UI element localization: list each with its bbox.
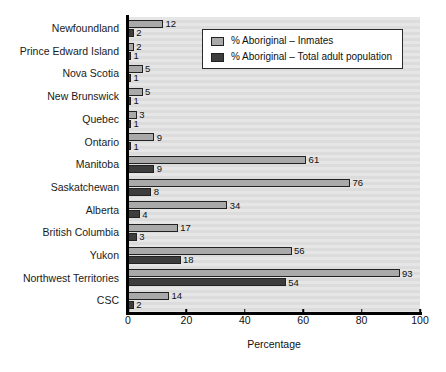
bar-value-label: 76 — [352, 178, 363, 188]
bar-wrapper: 8 — [128, 188, 420, 196]
y-axis-label: Quebec — [0, 108, 124, 131]
bar-wrapper: 14 — [128, 292, 420, 300]
bar — [128, 165, 154, 173]
bar-value-label: 4 — [142, 210, 147, 220]
bar — [128, 247, 292, 255]
x-axis-tick-label: 100 — [411, 314, 429, 326]
bar-wrapper: 34 — [128, 201, 420, 209]
legend-swatch-light — [211, 37, 224, 46]
x-axis-tick-label: 40 — [239, 314, 251, 326]
bar-value-label: 1 — [133, 73, 138, 83]
bar — [128, 301, 134, 309]
bar-group: 91 — [128, 130, 420, 153]
bar-wrapper: 5 — [128, 88, 420, 96]
bar-value-label: 1 — [133, 96, 138, 106]
bar-wrapper: 54 — [128, 278, 420, 286]
y-axis-label: Nova Scotia — [0, 62, 124, 85]
bar — [128, 292, 169, 300]
bar — [128, 20, 163, 28]
x-axis-tick-label: 0 — [125, 314, 131, 326]
bar — [128, 224, 178, 232]
legend-item: % Aboriginal – Inmates — [211, 36, 392, 46]
bar-wrapper: 76 — [128, 179, 420, 187]
bar-value-label: 54 — [288, 278, 299, 288]
bar-value-label: 2 — [136, 28, 141, 38]
bar-value-label: 8 — [154, 187, 159, 197]
bar-wrapper: 9 — [128, 133, 420, 141]
bar-value-label: 2 — [136, 300, 141, 310]
bar — [128, 256, 181, 264]
bar-wrapper: 1 — [128, 97, 420, 105]
y-axis-label: Saskatchewan — [0, 176, 124, 199]
legend-label: % Aboriginal – Inmates — [231, 36, 333, 46]
bar-group: 31 — [128, 108, 420, 131]
bar-group: 142 — [128, 289, 420, 312]
bar-value-label: 3 — [139, 232, 144, 242]
bar-value-label: 1 — [133, 119, 138, 129]
bar-value-label: 5 — [145, 64, 150, 74]
bar — [128, 156, 306, 164]
y-axis-label: Ontario — [0, 130, 124, 153]
legend-swatch-dark — [211, 53, 224, 62]
bar-value-label: 12 — [166, 19, 177, 29]
y-axis-label: Newfoundland — [0, 17, 124, 40]
bar-group: 768 — [128, 176, 420, 199]
y-axis-category-labels: NewfoundlandPrince Edward IslandNova Sco… — [0, 17, 124, 312]
bar — [128, 133, 154, 141]
x-axis-ticks: 020406080100 — [128, 314, 420, 334]
bar-wrapper: 1 — [128, 120, 420, 128]
bar-wrapper: 3 — [128, 233, 420, 241]
y-axis-label: Northwest Territories — [0, 267, 124, 290]
bar-value-label: 61 — [309, 155, 320, 165]
bar-value-label: 34 — [230, 201, 241, 211]
bar-value-label: 1 — [133, 142, 138, 152]
bar — [128, 210, 140, 218]
bar-group: 344 — [128, 199, 420, 222]
bar — [128, 179, 350, 187]
bar-value-label: 56 — [294, 246, 305, 256]
bar-wrapper: 4 — [128, 210, 420, 218]
bar-wrapper: 17 — [128, 224, 420, 232]
bar-group: 173 — [128, 221, 420, 244]
bar-value-label: 93 — [402, 269, 413, 279]
bar-wrapper: 3 — [128, 111, 420, 119]
bar — [128, 269, 400, 277]
x-axis-tick-label: 20 — [181, 314, 193, 326]
y-axis-label: CSC — [0, 289, 124, 312]
y-axis-line — [126, 15, 129, 314]
chart-legend: % Aboriginal – Inmates% Aboriginal – Tot… — [202, 29, 403, 69]
x-axis-tick-label: 60 — [297, 314, 309, 326]
y-axis-label: British Columbia — [0, 221, 124, 244]
y-axis-label: Prince Edward Island — [0, 40, 124, 63]
bar — [128, 188, 151, 196]
bar-value-label: 9 — [157, 164, 162, 174]
legend-label: % Aboriginal – Total adult population — [231, 52, 392, 62]
bar-value-label: 17 — [180, 223, 191, 233]
bar-value-label: 14 — [171, 291, 182, 301]
bar-value-label: 1 — [133, 51, 138, 61]
bar-wrapper: 1 — [128, 142, 420, 150]
bar — [128, 233, 137, 241]
x-axis-tick-label: 80 — [356, 314, 368, 326]
bar-wrapper: 56 — [128, 247, 420, 255]
bar-value-label: 5 — [145, 87, 150, 97]
bar-value-label: 3 — [139, 110, 144, 120]
bar-wrapper: 18 — [128, 256, 420, 264]
bar-wrapper: 93 — [128, 269, 420, 277]
bar-group: 619 — [128, 153, 420, 176]
bar — [128, 278, 286, 286]
bar-chart: NewfoundlandPrince Edward IslandNova Sco… — [0, 0, 446, 372]
bar-wrapper: 1 — [128, 74, 420, 82]
bar-group: 51 — [128, 85, 420, 108]
bar — [128, 29, 134, 37]
bar-group: 5618 — [128, 244, 420, 267]
y-axis-label: Yukon — [0, 244, 124, 267]
bar-wrapper: 2 — [128, 301, 420, 309]
bar-wrapper: 61 — [128, 156, 420, 164]
bar-value-label: 18 — [183, 255, 194, 265]
y-axis-label: Manitoba — [0, 153, 124, 176]
y-axis-label: Alberta — [0, 199, 124, 222]
bar-value-label: 9 — [157, 133, 162, 143]
bar-wrapper: 12 — [128, 20, 420, 28]
x-axis-title: Percentage — [128, 338, 420, 350]
